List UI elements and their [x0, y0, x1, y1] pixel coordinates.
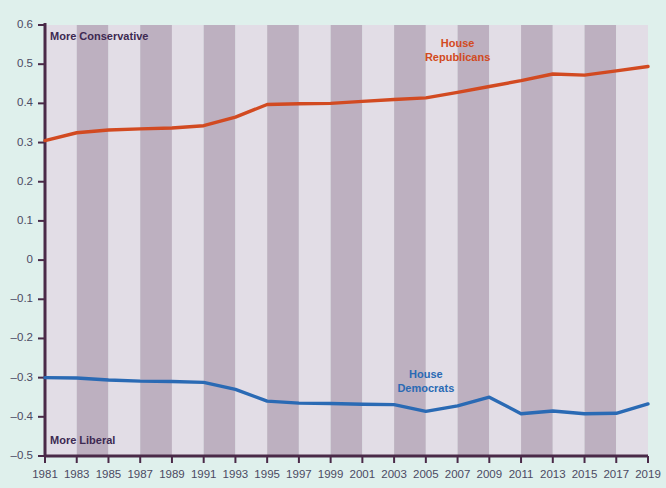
year-band: [204, 25, 236, 456]
year-band: [331, 25, 363, 456]
x-tick-label: 2011: [509, 468, 534, 480]
ideology-line-chart: 0.60.50.40.30.20.10–0.1–0.2–0.3–0.4–0.5 …: [0, 0, 666, 488]
x-tick-label: 2017: [603, 468, 629, 480]
x-tick-label: 2001: [350, 468, 376, 480]
year-band: [140, 25, 172, 456]
year-band: [299, 25, 331, 456]
x-tick-label: 2005: [413, 468, 439, 480]
y-tick-label: –0.2: [11, 331, 33, 343]
year-band: [77, 25, 109, 456]
year-band: [585, 25, 617, 456]
y-tick-label: 0.6: [17, 18, 33, 30]
y-tick-label: 0.3: [17, 136, 33, 148]
year-band: [362, 25, 394, 456]
year-band: [553, 25, 585, 456]
x-tick-label: 1997: [286, 468, 312, 480]
y-tick-label: –0.4: [11, 410, 34, 422]
x-tick-label: 1989: [159, 468, 185, 480]
x-tick-label: 1995: [254, 468, 280, 480]
year-band: [108, 25, 140, 456]
alternating-year-bands: [45, 25, 648, 456]
y-tick-label: 0.2: [17, 175, 33, 187]
x-tick-label: 2015: [572, 468, 598, 480]
y-tick-label: –0.1: [11, 292, 33, 304]
y-tick-label: –0.5: [11, 449, 33, 461]
x-tick-label: 1985: [96, 468, 122, 480]
year-band: [267, 25, 299, 456]
year-band: [489, 25, 521, 456]
year-band: [172, 25, 204, 456]
year-band: [521, 25, 553, 456]
year-band: [616, 25, 648, 456]
x-tick-label: 2007: [445, 468, 471, 480]
y-tick-label: 0.4: [17, 96, 34, 108]
y-tick-label: 0.5: [17, 57, 33, 69]
x-tick-label: 2019: [635, 468, 661, 480]
x-tick-label: 1993: [223, 468, 249, 480]
more-conservative-annotation: More Conservative: [50, 30, 148, 42]
x-tick-label: 1991: [191, 468, 217, 480]
x-tick-label: 2013: [540, 468, 566, 480]
y-tick-label: 0.1: [17, 214, 33, 226]
chart-container: 0.60.50.40.30.20.10–0.1–0.2–0.3–0.4–0.5 …: [0, 0, 666, 488]
x-tick-label: 1999: [318, 468, 344, 480]
y-tick-label: –0.3: [11, 371, 33, 383]
y-tick-label: 0: [27, 253, 33, 265]
cropped-caption-text: [0, 0, 666, 2]
x-tick-label: 1983: [64, 468, 90, 480]
x-tick-label: 1987: [127, 468, 153, 480]
x-tick-label: 2009: [477, 468, 503, 480]
year-band: [45, 25, 77, 456]
x-tick-label: 2003: [381, 468, 407, 480]
x-tick-label: 1981: [32, 468, 58, 480]
more-liberal-annotation: More Liberal: [50, 434, 115, 446]
